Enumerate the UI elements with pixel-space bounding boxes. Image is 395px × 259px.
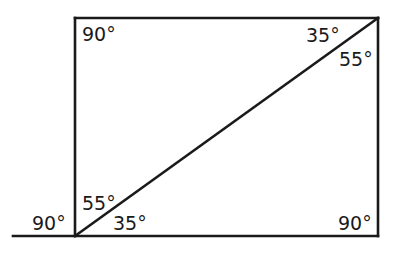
label-top-left-angle: 90° <box>82 23 116 45</box>
label-bottom-right-angle: 90° <box>338 212 372 234</box>
label-bottom-left-upper-angle: 55° <box>82 192 116 214</box>
label-top-right-upper-angle: 35° <box>306 24 340 46</box>
angle-diagram: 90° 35° 55° 55° 35° 90° 90° <box>0 0 395 259</box>
label-top-right-lower-angle: 55° <box>339 48 373 70</box>
label-bottom-left-lower-angle: 35° <box>113 212 147 234</box>
label-bottom-left-exterior-angle: 90° <box>32 212 66 234</box>
diagonal <box>75 18 378 236</box>
